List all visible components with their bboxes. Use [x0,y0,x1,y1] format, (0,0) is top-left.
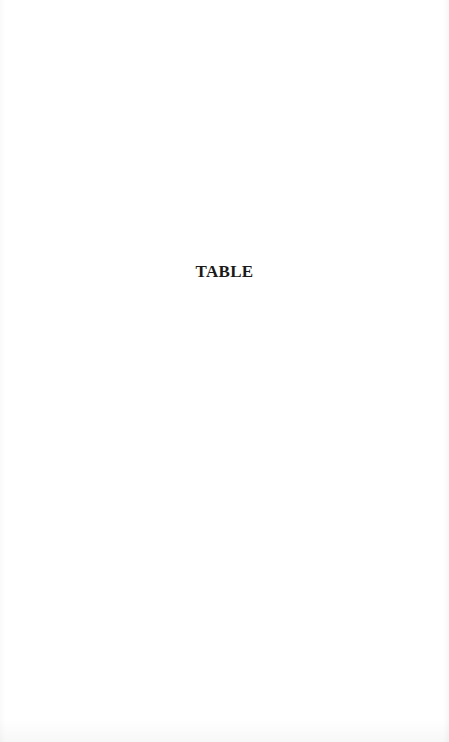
scan-edge-shadow-right [443,0,449,742]
document-page: TABLE [0,0,449,742]
page-heading: TABLE [0,262,449,282]
scan-edge-shadow-bottom [0,720,449,742]
scan-edge-shadow-left [0,0,6,742]
